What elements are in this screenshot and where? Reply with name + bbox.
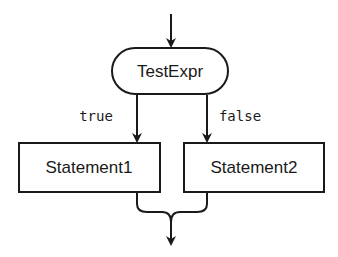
merge-right-connector xyxy=(171,193,207,222)
merge-left-connector xyxy=(137,193,171,222)
statement1-label: Statement1 xyxy=(46,158,133,177)
false-branch-label: false xyxy=(219,108,261,124)
true-branch-label: true xyxy=(79,108,113,124)
test-expr-label: TestExpr xyxy=(137,62,203,81)
statement1-node: Statement1 xyxy=(19,143,160,192)
flowchart-canvas: TestExpr true false Statement1 Statement… xyxy=(0,0,338,257)
test-expr-node: TestExpr xyxy=(112,48,228,94)
statement2-node: Statement2 xyxy=(184,143,324,192)
statement2-label: Statement2 xyxy=(211,158,298,177)
